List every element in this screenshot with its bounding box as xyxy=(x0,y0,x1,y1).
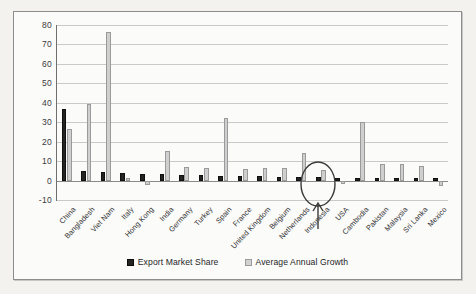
bar xyxy=(394,178,399,181)
bar-group xyxy=(101,25,111,200)
bar xyxy=(67,129,72,181)
bar-group xyxy=(257,25,267,200)
x-axis-category-label: Turkey xyxy=(192,205,214,228)
bar xyxy=(87,104,92,181)
legend-swatch-icon xyxy=(127,259,134,266)
bar-group xyxy=(238,25,248,200)
bar xyxy=(439,181,444,187)
gridline xyxy=(57,161,448,162)
y-axis-tick-label: 30 xyxy=(42,117,52,127)
bar-group xyxy=(218,25,228,200)
y-axis-tick-label: 60 xyxy=(42,59,52,69)
bar xyxy=(218,176,223,181)
bar xyxy=(106,32,111,181)
y-axis-tick-label: 50 xyxy=(42,78,52,88)
bar xyxy=(145,181,150,186)
gridline xyxy=(57,64,448,65)
bar xyxy=(296,177,301,181)
bar xyxy=(282,168,287,181)
bar-group xyxy=(296,25,306,200)
bar-group xyxy=(277,25,287,200)
gridline xyxy=(57,122,448,123)
bar xyxy=(101,172,106,181)
legend-label: Average Annual Growth xyxy=(256,257,349,267)
bar xyxy=(199,175,204,181)
bar xyxy=(263,168,268,181)
bar xyxy=(160,174,165,181)
gridline xyxy=(57,25,448,26)
bar-group xyxy=(120,25,130,200)
bar xyxy=(126,178,131,181)
bar xyxy=(165,151,170,180)
gridline xyxy=(57,44,448,45)
x-axis-category-label: Italy xyxy=(120,205,136,221)
bar-group xyxy=(394,25,404,200)
y-axis-tick-label: 0 xyxy=(47,176,52,186)
y-axis-tick-label: 70 xyxy=(42,39,52,49)
bar-group xyxy=(199,25,209,200)
chart-frame: 80706050403020100-10 ChinaBangladeshViet… xyxy=(13,11,462,280)
legend-entry: Export Market Share xyxy=(127,257,219,267)
legend-label: Export Market Share xyxy=(138,257,219,267)
y-axis-tick-label: 40 xyxy=(42,98,52,108)
bar-group xyxy=(179,25,189,200)
bar xyxy=(316,177,321,181)
x-axis-category-label: Mexico xyxy=(426,205,449,229)
scanned-page: 80706050403020100-10 ChinaBangladeshViet… xyxy=(0,0,476,294)
bar xyxy=(419,166,424,181)
y-axis-tick-label: 20 xyxy=(42,137,52,147)
bar-group xyxy=(375,25,385,200)
bar xyxy=(335,178,340,181)
bar xyxy=(238,176,243,181)
bar xyxy=(184,167,189,181)
bar xyxy=(81,171,86,181)
legend-entry: Average Annual Growth xyxy=(245,257,349,267)
bar xyxy=(277,177,282,181)
bar-group xyxy=(81,25,91,200)
bar-group xyxy=(335,25,345,200)
bar xyxy=(243,169,248,181)
gridline xyxy=(57,200,448,201)
y-axis-tick-label: -10 xyxy=(39,195,52,205)
bar xyxy=(414,178,419,181)
y-axis-tick-label: 80 xyxy=(42,20,52,30)
bar xyxy=(380,164,385,181)
bar-group xyxy=(316,25,326,200)
bar-group xyxy=(62,25,72,200)
plot-area: 80706050403020100-10 xyxy=(56,25,448,201)
bar xyxy=(341,181,346,185)
bar xyxy=(433,178,438,181)
legend-swatch-icon xyxy=(245,259,252,266)
gridline xyxy=(57,142,448,143)
bar-group xyxy=(160,25,170,200)
bar xyxy=(360,122,365,180)
bar xyxy=(375,178,380,181)
bar xyxy=(302,153,307,180)
bar xyxy=(355,178,360,181)
bar-group xyxy=(140,25,150,200)
bar-group xyxy=(355,25,365,200)
bar xyxy=(140,174,145,181)
bar xyxy=(62,109,67,181)
bar xyxy=(321,170,326,181)
x-axis-labels: ChinaBangladeshViet NamItalyHong KongInd… xyxy=(56,203,448,265)
bar xyxy=(179,175,184,181)
bar xyxy=(224,118,229,180)
y-axis-tick-label: 10 xyxy=(42,156,52,166)
gridline xyxy=(57,83,448,84)
bar-group xyxy=(414,25,424,200)
chart-legend: Export Market ShareAverage Annual Growth xyxy=(14,257,461,267)
gridline xyxy=(57,181,448,182)
bar xyxy=(120,173,125,181)
bar xyxy=(204,168,209,181)
bar-group xyxy=(433,25,443,200)
bar xyxy=(400,164,405,181)
plot-inner: 80706050403020100-10 xyxy=(57,25,448,200)
bar xyxy=(257,176,262,181)
gridline xyxy=(57,103,448,104)
